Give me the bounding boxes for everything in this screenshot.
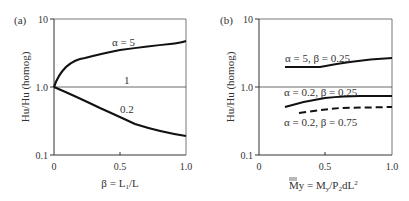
annotation-series-3: α = 0.2, β = 0.75 — [284, 116, 358, 128]
x-axis-label: My = My/P2dL2 — [289, 178, 358, 193]
y-tick-label: 1.0 — [241, 82, 254, 93]
y-axis-label: Hu/Hu (homog) — [224, 51, 237, 122]
x-axis-label: β = L1/L — [101, 177, 139, 191]
annotation-alpha-5: α = 5 — [112, 36, 135, 48]
y-tick-label: 10 — [38, 14, 48, 25]
x-tick-label: 1.0 — [180, 161, 193, 172]
y-tick-label: 0.1 — [36, 150, 49, 161]
y-axis-label: Hu/Hu (homog) — [19, 51, 32, 122]
x-tick-label: 0.5 — [319, 161, 332, 172]
annotation-series-2: α = 0.2, β = 0.25 — [284, 86, 358, 98]
x-tick-label: 1.0 — [386, 161, 399, 172]
annotation-alpha-0.2: 0.2 — [120, 103, 134, 115]
y-tick-label: 10 — [243, 14, 253, 25]
svg-text:My = My/P2dL2: My = My/P2dL2 — [289, 179, 358, 193]
x-tick-label: 0 — [52, 161, 57, 172]
annotation-alpha-1: 1 — [124, 74, 130, 86]
x-tick-label: 0.5 — [114, 161, 127, 172]
panel-a: (a) 10 1.0 0.1 0 0.5 1.0 Hu/Hu (homog) β… — [14, 14, 192, 191]
y-tick-label: 0.1 — [241, 150, 254, 161]
series-alpha02-beta075 — [299, 107, 392, 113]
annotation-series-1: α = 5, β = 0.25 — [285, 52, 351, 64]
x-tick-label: 0 — [257, 161, 262, 172]
panel-b: (b) 10 1.0 0.1 0 0.5 1.0 Hu/Hu (homog) M… — [220, 14, 398, 193]
y-tick-label: 1.0 — [36, 82, 49, 93]
panel-b-label: (b) — [220, 14, 233, 27]
figure: (a) 10 1.0 0.1 0 0.5 1.0 Hu/Hu (homog) β… — [0, 0, 409, 201]
panel-a-label: (a) — [14, 14, 27, 27]
